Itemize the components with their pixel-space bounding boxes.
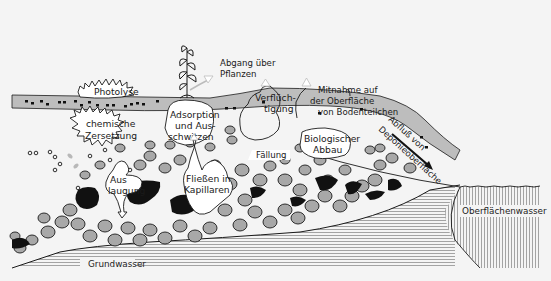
chemische-label-1: chemische (86, 118, 136, 129)
surface-water-region (445, 186, 540, 268)
auslaugung-label-1: Aus (110, 174, 127, 185)
adsorption-label-2: und Aus- (175, 120, 216, 131)
landfill-pollutant-diagram: Photolyse chemische Zersetzung Abgang üb… (0, 0, 551, 281)
adsorption-label-1: Adsorption (170, 109, 220, 120)
mitnahme-label-2: der Oberfläche (310, 96, 374, 106)
abgang-label-2: Pflanzen (220, 69, 257, 79)
photolyse-bubble: Photolyse (78, 79, 139, 98)
faellung-label: Fällung (256, 150, 287, 160)
auslaugung-label-2: laugung (108, 185, 145, 196)
biologisch-label-2: Abbau (313, 144, 342, 155)
grundwasser-label: Grundwasser (88, 259, 146, 269)
fliessen-label-2: Kapillaren (184, 184, 230, 195)
chemische-label-2: Zersetzung (85, 130, 137, 141)
mitnahme-label-1: Mitnahme auf (318, 85, 378, 95)
abgang-label-1: Abgang über (220, 58, 276, 68)
faellung-annotation: Fällung (248, 150, 290, 160)
fliessen-label-1: Fließen in (186, 173, 231, 184)
oberflaechenwasser-label: Oberflächenwasser (462, 206, 547, 216)
photolyse-label: Photolyse (94, 86, 139, 97)
biologisch-label-1: Biologischer (304, 133, 360, 144)
biologischer-abbau-bubble: Biologischer Abbau (300, 128, 360, 159)
mitnahme-label-3: von Bodenteilchen (318, 107, 398, 117)
diagram-canvas: Photolyse chemische Zersetzung Abgang üb… (0, 0, 551, 281)
plant-icon (179, 46, 196, 98)
grey-flakes (67, 153, 80, 170)
verfluechtigung-label-2: tigung (264, 103, 293, 114)
verfluechtigung-label-1: Verflüch- (255, 92, 296, 103)
chemische-zersetzung-bubble: chemische Zersetzung (70, 106, 137, 146)
